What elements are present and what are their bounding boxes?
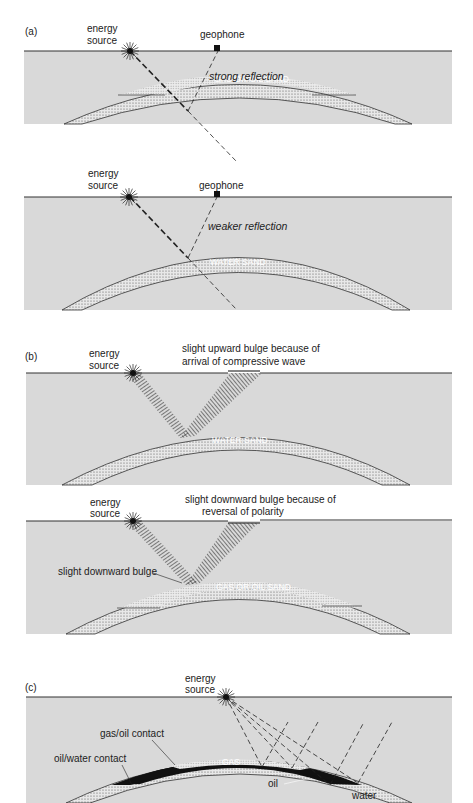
energy-source-icon <box>120 188 138 206</box>
bulge-note: slight upward bulge because of <box>182 343 320 354</box>
geophone-icon <box>214 191 220 197</box>
bulge-note: reversal of polarity <box>202 506 284 517</box>
bulge-note: slight downward bulge because of <box>185 494 336 505</box>
oil-label: oil <box>268 778 278 789</box>
energy-source-label: energy <box>88 168 119 179</box>
energy-source-label: source <box>185 684 215 695</box>
panel-b-bottom: GAS OR OIL SAND energy source slight dow… <box>26 494 452 634</box>
energy-source-icon <box>124 364 142 382</box>
zone-label: WATER SAND <box>212 435 268 445</box>
reflection-label: weaker reflection <box>208 220 288 232</box>
geophone-label: geophone <box>200 29 245 40</box>
energy-source-icon <box>217 688 235 706</box>
energy-source-icon <box>121 42 139 60</box>
energy-source-icon <box>124 512 142 530</box>
panel-b-top: (b) WATER SAND energy source slight upwa… <box>25 343 452 485</box>
energy-source-label: energy <box>90 497 121 508</box>
energy-source-label: energy <box>89 348 120 359</box>
panel-b-label: (b) <box>25 351 37 362</box>
geophone-icon <box>214 45 220 51</box>
panel-a-bottom: WATER SAND energy source geophone weaker… <box>24 168 452 310</box>
energy-source-label: energy <box>185 673 216 684</box>
seismic-figure: (a) GAS OR OIL SAND energy source geopho… <box>0 0 473 803</box>
zone-label: WATER SAND <box>210 257 266 267</box>
energy-source-label: source <box>87 35 117 46</box>
energy-source-label: source <box>90 508 120 519</box>
water-label: water <box>351 790 377 801</box>
energy-source-label: source <box>88 180 118 191</box>
panel-c-label: (c) <box>25 682 37 693</box>
gas-label: GAS <box>222 757 240 767</box>
zone-label: GAS OR OIL SAND <box>216 582 291 592</box>
bulge-label: slight downward bulge <box>58 566 157 577</box>
reflection-label: strong reflection <box>209 70 284 82</box>
bulge-note: arrival of compressive wave <box>182 356 306 367</box>
panel-c: (c) GAS energy source gas/oil contact oi… <box>25 673 452 803</box>
gas-oil-contact-label: gas/oil contact <box>100 728 164 739</box>
energy-source-label: energy <box>87 23 118 34</box>
oil-water-contact-label: oil/water contact <box>54 753 126 764</box>
energy-source-label: source <box>89 360 119 371</box>
panel-a-label: (a) <box>25 26 37 37</box>
geophone-label: geophone <box>199 180 244 191</box>
panel-a-top: (a) GAS OR OIL SAND energy source geopho… <box>24 23 452 161</box>
